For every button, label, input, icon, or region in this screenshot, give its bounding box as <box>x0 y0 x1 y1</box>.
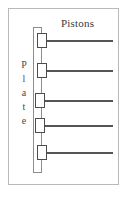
piston-1-rod <box>47 40 113 42</box>
piston-plate-diagram: Pistons P l a t e <box>0 0 130 197</box>
piston-5-block <box>37 145 47 160</box>
plate-label-letter-1: P <box>18 58 30 72</box>
piston-1-block <box>37 33 47 48</box>
piston-2-block <box>37 63 47 78</box>
plate-label-letter-2: l <box>18 72 30 86</box>
piston-4-block <box>35 118 45 133</box>
piston-4-rod <box>45 125 113 127</box>
piston-5-rod <box>47 152 113 154</box>
plate-label-letter-4: t <box>18 100 30 114</box>
piston-3-block <box>35 93 45 108</box>
pistons-label: Pistons <box>61 17 94 29</box>
plate-label: P l a t e <box>18 58 30 128</box>
plate-label-letter-5: e <box>18 114 30 128</box>
piston-3-rod <box>45 100 113 102</box>
plate-label-letter-3: a <box>18 86 30 100</box>
piston-2-rod <box>47 70 113 72</box>
